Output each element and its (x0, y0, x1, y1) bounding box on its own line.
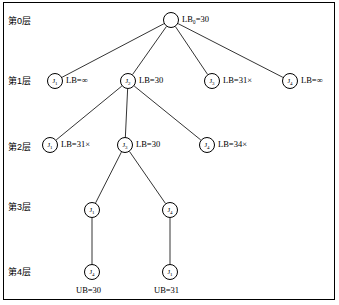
node-j4-l3: J4 (162, 202, 178, 218)
node-j3-l2: J3 (117, 137, 133, 153)
edge-n2-n6 (125, 89, 127, 137)
node-root (163, 12, 179, 28)
node-j3-l2-index: 3 (125, 145, 128, 150)
node-j1-l2-index: 1 (50, 145, 53, 150)
node-j4-l2-bound-label: LB=34× (218, 139, 247, 149)
node-j1-l3-index: 1 (92, 210, 95, 215)
layer-label-1: 第1层 (8, 74, 31, 87)
node-j1-l4: J1 (162, 264, 178, 280)
node-j1-l4-index: 1 (170, 272, 173, 277)
node-j1-l1: J1 (47, 73, 63, 89)
node-j1-l1-bound-label: LB=∞ (66, 75, 88, 85)
edge-root-n3 (175, 27, 207, 75)
layer-label-4: 第4层 (8, 265, 31, 278)
node-j4-l4: J4 (84, 264, 100, 280)
node-j4-l2: J4 (199, 137, 215, 153)
edge-n2-n7 (134, 86, 201, 140)
layer-label-0: 第0层 (8, 14, 31, 27)
node-j4-l1-bound-label: LB=∞ (301, 75, 323, 85)
edge-n6-n8 (96, 152, 122, 203)
node-j3-l1-index: 3 (212, 81, 215, 86)
node-j4-l1-index: 4 (290, 81, 293, 86)
node-j3-l1-bound-label: LB=31× (223, 75, 252, 85)
edge-root-n1 (62, 24, 164, 78)
layer-label-3: 第3层 (8, 200, 31, 213)
node-j2-l1: J2 (120, 73, 136, 89)
edge-n2-n5 (56, 86, 122, 140)
node-j4-l4-index: 4 (92, 272, 95, 277)
node-j4-l2-index: 4 (207, 145, 210, 150)
node-j4-l3-index: 4 (170, 210, 173, 215)
edge-root-n2 (133, 27, 167, 75)
diagram-page: 第0层第1层第2层第3层第4层 LB₀=30J1LB=∞J2LB=30J3LB=… (0, 0, 339, 305)
node-j1-l2: J1 (42, 137, 58, 153)
edge-n6-n9 (130, 152, 166, 204)
node-j2-l1-bound-label: LB=30 (139, 75, 163, 85)
node-j3-l1: J3 (204, 73, 220, 89)
node-j1-l3: J1 (84, 202, 100, 218)
leaf-label-ub31: UB=31 (154, 285, 179, 295)
node-j4-l1: J4 (282, 73, 298, 89)
node-j2-l1-index: 2 (128, 81, 131, 86)
node-j1-l1-index: 1 (55, 81, 58, 86)
node-root-bound-label: LB₀=30 (182, 14, 209, 24)
node-j3-l2-bound-label: LB=30 (136, 139, 160, 149)
leaf-label-ub30: UB=30 (76, 285, 101, 295)
edge-root-n4 (178, 24, 283, 78)
layer-label-2: 第2层 (8, 140, 31, 153)
node-j1-l2-bound-label: LB=31× (61, 139, 90, 149)
